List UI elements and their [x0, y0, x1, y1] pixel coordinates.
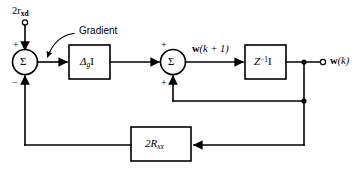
gradient-gain-block-label: ΔgI — [80, 56, 94, 68]
output-terminal-label: w(k) — [330, 56, 349, 67]
weight-update-signal-label: w(k + 1) — [192, 44, 229, 55]
output-terminal-circle — [320, 59, 325, 64]
input-terminal-label: 2rxd — [12, 6, 29, 17]
summer-left-sigma: Σ — [20, 56, 26, 67]
output-label-paren: (k) — [338, 55, 350, 66]
summer-right-sigma: Σ — [168, 56, 174, 67]
delay-block-sup: −1 — [260, 55, 268, 64]
weight-signal-paren: (k + 1) — [200, 43, 229, 54]
input-label-lead: 2r — [12, 5, 21, 16]
input-label-sub: xd — [21, 9, 29, 18]
unit-delay-block-label: Z−1I — [254, 56, 272, 67]
junction-dot-top — [301, 59, 306, 64]
corr-block-sub: xx — [157, 142, 164, 151]
correlation-matrix-block-label: 2Rxx — [145, 138, 164, 150]
summer-right-plus-sign-bottom: + — [161, 78, 167, 88]
summer-right-plus-sign-top: + — [161, 40, 167, 50]
corr-block-lead: 2R — [145, 137, 157, 149]
summer-left-plus-sign: + — [13, 40, 19, 50]
block-diagram: 2rxd Σ + − Gradient ΔgI Σ + + w(k + 1) Z… — [0, 0, 358, 170]
gradient-annotation-label: Gradient — [79, 26, 117, 36]
weight-signal-lead: w — [192, 43, 200, 54]
delay-block-tail: I — [268, 55, 272, 67]
output-label-lead: w — [330, 55, 338, 66]
gradient-block-tail: I — [90, 55, 94, 67]
input-terminal-circle — [22, 20, 27, 25]
summer-left-minus-sign: − — [12, 78, 18, 88]
diagram-canvas — [0, 0, 358, 170]
